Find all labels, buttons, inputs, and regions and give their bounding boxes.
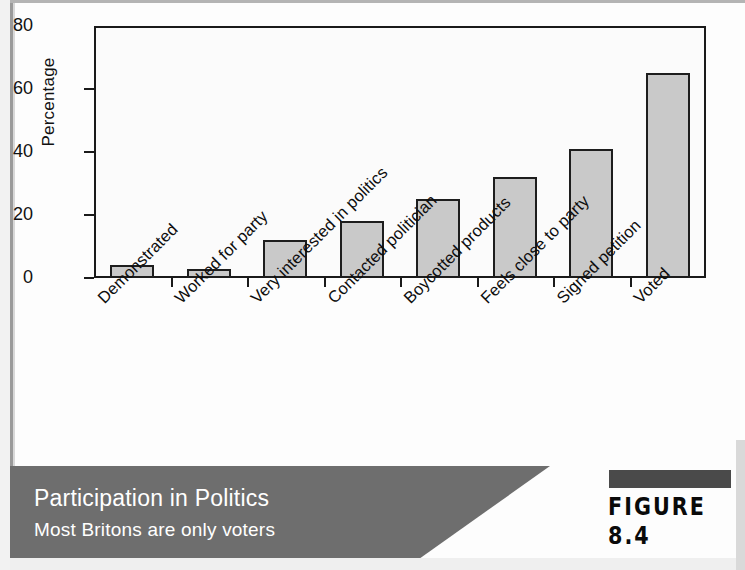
y-axis-label: Percentage (39, 22, 59, 182)
figure-label: FIGURE 8.4 (608, 492, 734, 550)
page-right-edge (736, 440, 745, 570)
x-tick-mark (477, 278, 479, 287)
y-tick-label: 20 (0, 204, 33, 225)
figure-label-bar (609, 470, 731, 488)
figure-page: Percentage 020406080 DemonstratedWorked … (0, 0, 745, 570)
x-tick-mark (171, 278, 173, 287)
y-tick-label: 60 (0, 78, 33, 99)
y-tick-mark (84, 88, 94, 90)
x-tick-mark (630, 278, 632, 287)
x-tick-mark (324, 278, 326, 287)
caption-subtitle: Most Britons are only voters (34, 519, 275, 541)
y-tick-label: 80 (0, 15, 33, 36)
x-tick-mark (553, 278, 555, 287)
caption-title: Participation in Politics (34, 485, 269, 512)
y-tick-mark (84, 151, 94, 153)
bar-chart: Percentage 020406080 DemonstratedWorked … (0, 0, 745, 460)
y-tick-mark (84, 214, 94, 216)
y-tick-label: 40 (0, 141, 33, 162)
page-bottom-edge (10, 558, 745, 570)
bar (646, 73, 690, 278)
x-tick-mark (400, 278, 402, 287)
caption-band (10, 466, 550, 558)
y-tick-mark (84, 277, 94, 279)
x-tick-mark (247, 278, 249, 287)
y-tick-label: 0 (0, 267, 33, 288)
